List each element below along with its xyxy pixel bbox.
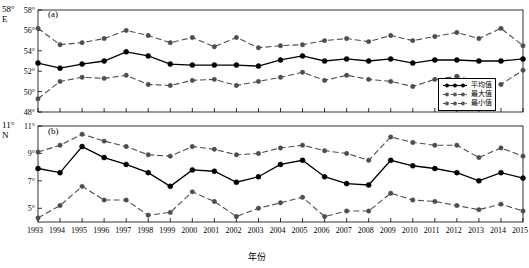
data-point — [477, 155, 481, 159]
x-tick-label: 2000 — [181, 226, 197, 235]
data-point — [234, 153, 238, 157]
x-tick-label: 1997 — [115, 226, 131, 235]
data-point — [521, 56, 526, 61]
data-point — [300, 70, 304, 74]
y-tick-label: 54° — [24, 47, 35, 56]
data-point — [168, 210, 172, 214]
data-point — [521, 44, 525, 48]
data-point — [455, 30, 459, 34]
legend-key-icon — [442, 90, 468, 99]
data-point — [521, 154, 525, 158]
panel-b-plot: 5°7°9°11° — [0, 118, 529, 258]
x-tick-label: 2003 — [247, 226, 263, 235]
data-point — [124, 28, 128, 32]
data-point — [80, 75, 84, 79]
data-point — [433, 199, 437, 203]
data-point — [499, 26, 503, 30]
data-point — [212, 45, 216, 49]
data-point — [102, 59, 107, 64]
data-point — [36, 216, 40, 220]
data-point — [58, 203, 62, 207]
data-point — [498, 170, 503, 175]
data-point — [432, 57, 437, 62]
y-tick-label: 7° — [28, 177, 35, 186]
data-point — [366, 209, 370, 213]
x-tick-label: 2005 — [292, 226, 308, 235]
chart-figure: 48°50°52°54°56°58°58° E(a)平均值最大值最小值 5°7°… — [0, 0, 529, 268]
data-point — [256, 174, 261, 179]
data-point — [454, 57, 459, 62]
data-point — [190, 35, 194, 39]
x-tick-label: 1995 — [71, 226, 87, 235]
data-point — [322, 174, 327, 179]
data-point — [102, 36, 106, 40]
data-point — [256, 79, 260, 83]
legend-label: 平均值 — [471, 81, 492, 90]
data-point — [411, 198, 415, 202]
data-point — [146, 33, 150, 37]
x-tick-label: 2007 — [336, 226, 352, 235]
data-point — [389, 33, 393, 37]
x-axis-title: 年份 — [248, 250, 266, 263]
x-tick-label: 2008 — [358, 226, 374, 235]
data-point — [80, 40, 84, 44]
data-point — [322, 38, 326, 42]
data-point — [300, 195, 304, 199]
data-point — [212, 77, 216, 81]
panel-b: 5°7°9°11°11° N(b)19931994199519961997199… — [0, 118, 529, 258]
legend-label: 最小值 — [471, 99, 492, 108]
data-point — [366, 158, 370, 162]
data-point — [146, 53, 151, 58]
data-point — [124, 49, 129, 54]
data-point — [80, 144, 85, 149]
x-tick-label: 2010 — [402, 226, 418, 235]
data-point — [454, 170, 459, 175]
panel-a: 48°50°52°54°56°58°58° E(a)平均值最大值最小值 — [0, 0, 529, 120]
data-point — [168, 40, 172, 44]
legend-key-icon — [442, 81, 468, 90]
data-point — [322, 59, 327, 64]
data-point — [36, 97, 40, 101]
data-point — [344, 73, 348, 77]
data-point — [410, 163, 415, 168]
y-tick-label: 50° — [24, 88, 35, 97]
legend-item: 最小值 — [442, 99, 492, 108]
data-point — [521, 209, 525, 213]
y-axis-unit-label: 58° E — [2, 4, 15, 24]
panel-tag: (a) — [48, 9, 58, 19]
data-point — [344, 56, 349, 61]
data-point — [124, 198, 128, 202]
data-point — [256, 206, 260, 210]
data-point — [190, 190, 194, 194]
data-point — [190, 78, 194, 82]
data-point — [168, 83, 172, 87]
data-point — [212, 63, 217, 68]
data-point — [388, 158, 393, 163]
x-tick-label: 2006 — [314, 226, 330, 235]
y-axis-unit-label: 11° N — [2, 120, 14, 140]
data-point — [80, 132, 84, 136]
data-point — [190, 144, 194, 148]
data-point — [256, 46, 260, 50]
data-point — [300, 42, 304, 46]
data-point — [278, 201, 282, 205]
y-tick-label: 48° — [24, 108, 35, 117]
data-point — [300, 53, 305, 58]
data-point — [411, 84, 415, 88]
data-point — [146, 213, 150, 217]
data-point — [344, 181, 349, 186]
data-point — [36, 61, 41, 66]
data-point — [102, 198, 106, 202]
data-point — [433, 77, 437, 81]
data-point — [278, 75, 282, 79]
legend-label: 最大值 — [471, 90, 492, 99]
data-point — [58, 79, 62, 83]
data-point — [300, 143, 304, 147]
x-tick-label: 2012 — [446, 226, 462, 235]
data-point — [58, 143, 62, 147]
data-point — [212, 169, 217, 174]
data-point — [455, 143, 459, 147]
data-point — [300, 158, 305, 163]
data-point — [146, 82, 150, 86]
x-tick-label: 2009 — [380, 226, 396, 235]
